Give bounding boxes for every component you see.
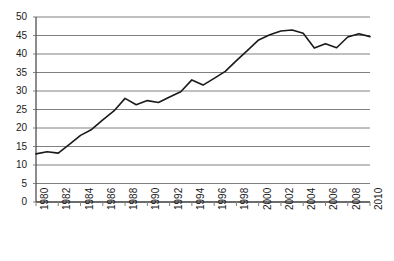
- x-axis-tick-label: 1982: [62, 188, 72, 210]
- y-axis-tick-label: 15: [5, 142, 27, 152]
- x-axis-tick-label: 1992: [174, 188, 184, 210]
- data-series-line: [36, 30, 370, 154]
- y-axis-tick-label: 30: [5, 86, 27, 96]
- x-axis-tick-label: 1980: [40, 188, 50, 210]
- x-axis-tick-label: 1998: [240, 188, 250, 210]
- x-axis-tick-label: 2002: [285, 188, 295, 210]
- y-axis-tick-label: 45: [5, 31, 27, 41]
- y-axis-tick-label: 5: [5, 179, 27, 189]
- x-axis-tick-label: 1990: [151, 188, 161, 210]
- x-axis-tick-label: 1996: [218, 188, 228, 210]
- y-axis-tick-label: 50: [5, 12, 27, 22]
- x-axis-tick-label: 2004: [307, 188, 317, 210]
- line-chart: 05101520253035404550 1980198219841986198…: [0, 0, 394, 261]
- x-axis-tick-label: 2010: [374, 188, 384, 210]
- y-axis-tick-label: 20: [5, 123, 27, 133]
- x-axis-tick-label: 1986: [107, 188, 117, 210]
- x-axis-tick-label: 2006: [329, 188, 339, 210]
- x-axis-tick-label: 1984: [85, 188, 95, 210]
- grid-lines: [36, 17, 370, 202]
- x-axis-tick-label: 1988: [129, 188, 139, 210]
- x-axis-tick-label: 2000: [263, 188, 273, 210]
- y-axis-tick-label: 0: [5, 197, 27, 207]
- chart-plot-area: [0, 0, 394, 261]
- x-axis-tick-label: 1994: [196, 188, 206, 210]
- y-axis-tick-label: 40: [5, 49, 27, 59]
- y-axis-tick-label: 25: [5, 105, 27, 115]
- x-axis-tick-label: 2008: [352, 188, 362, 210]
- y-axis-tick-label: 35: [5, 68, 27, 78]
- y-axis-tick-label: 10: [5, 160, 27, 170]
